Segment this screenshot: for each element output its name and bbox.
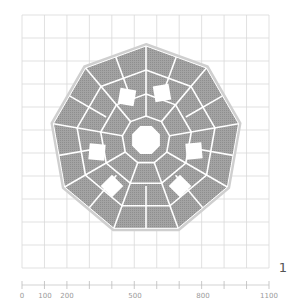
figure-label: 1 — [279, 260, 287, 275]
ruler-label-100: 100 — [38, 292, 51, 300]
hole-top-right — [153, 84, 172, 103]
hole-right — [185, 142, 202, 159]
center-hole — [132, 126, 160, 154]
ruler-label-800: 800 — [196, 292, 209, 300]
hole-left — [88, 143, 105, 160]
hole-top-left — [118, 88, 137, 107]
ruler-label-500: 500 — [128, 292, 141, 300]
ruler-label-200: 200 — [60, 292, 73, 300]
scale-ruler: 0 100 200 500 800 1100 — [20, 281, 278, 300]
ruler-label-1100: 1100 — [260, 292, 278, 300]
nonagon-structure — [52, 45, 240, 230]
diagram-canvas: 0 100 200 500 800 1100 1 — [0, 0, 300, 303]
ruler-label-0: 0 — [20, 292, 24, 300]
